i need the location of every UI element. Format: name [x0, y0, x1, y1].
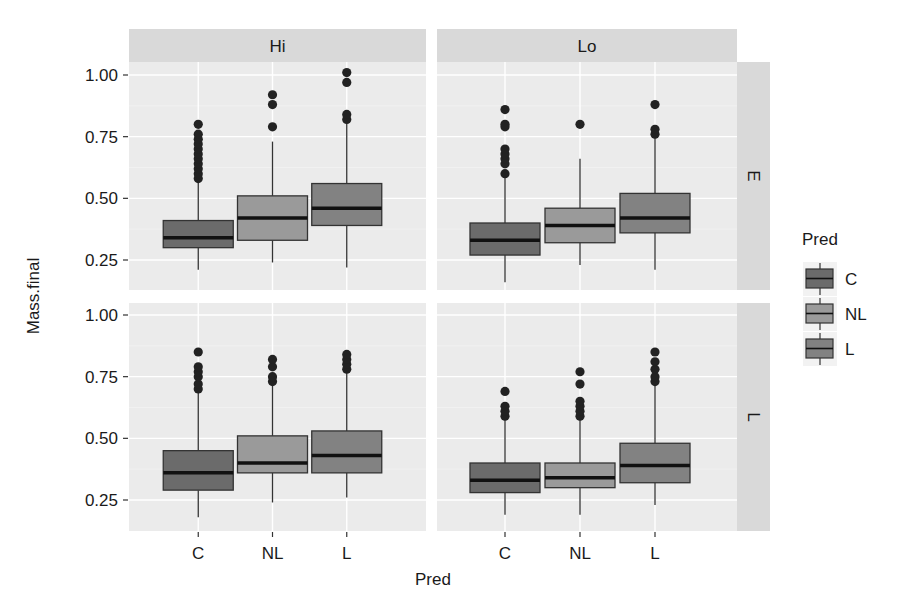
legend-label: NL: [845, 305, 867, 324]
strip-corner: [737, 62, 770, 92]
y-tick-label: 0.25: [85, 251, 118, 270]
y-tick-label: 0.50: [85, 189, 118, 208]
y-axis-e: 0.250.500.751.00: [85, 66, 128, 270]
outlier-point: [194, 347, 203, 356]
y-tick-label: 0.75: [85, 128, 118, 147]
box-iqr: [312, 184, 382, 226]
outlier-point: [342, 68, 351, 77]
outlier-point: [194, 120, 203, 129]
strip-label: Lo: [578, 37, 597, 56]
x-tick-label: NL: [569, 544, 591, 563]
outlier-point: [342, 350, 351, 359]
panels-layer: [129, 62, 737, 531]
faceted-boxplot-chart: HiLoEL Mass.final Pred 0.250.500.751.000…: [0, 0, 915, 612]
panel-background: [129, 303, 426, 531]
y-tick-label: 0.25: [85, 491, 118, 510]
y-axis-title: Mass.final: [24, 258, 43, 335]
strip-lo: Lo: [437, 29, 737, 62]
legend-label: L: [845, 340, 854, 359]
panel-lo-e: [437, 62, 737, 290]
strip-e: E: [737, 92, 770, 290]
legend-item-c: C: [803, 262, 857, 296]
x-tick-label: NL: [262, 544, 284, 563]
y-axis-l: 0.250.500.751.00: [85, 306, 128, 510]
outlier-point: [500, 144, 509, 153]
outlier-point: [194, 130, 203, 139]
strip-label: L: [744, 412, 763, 421]
outlier-point: [575, 120, 584, 129]
panel-background: [129, 62, 426, 290]
x-axis-lo: CNLL: [499, 532, 660, 563]
outlier-point: [194, 362, 203, 371]
strip-hi: Hi: [129, 29, 426, 62]
outlier-point: [650, 347, 659, 356]
box-iqr: [470, 463, 540, 493]
y-tick-label: 0.50: [85, 429, 118, 448]
box-iqr: [620, 193, 690, 232]
legend: Pred CNLL: [802, 230, 867, 366]
outlier-point: [575, 397, 584, 406]
y-tick-label: 1.00: [85, 66, 118, 85]
x-tick-label: C: [499, 544, 511, 563]
outlier-point: [268, 122, 277, 131]
x-tick-label: L: [650, 544, 659, 563]
x-axis-hi: CNLL: [192, 532, 351, 563]
box-iqr: [312, 431, 382, 473]
strip-l: L: [737, 303, 770, 531]
outlier-point: [500, 387, 509, 396]
outlier-point: [268, 90, 277, 99]
outlier-point: [268, 355, 277, 364]
chart-canvas: HiLoEL Mass.final Pred 0.250.500.751.000…: [0, 0, 915, 612]
outlier-point: [575, 379, 584, 388]
legend-title: Pred: [802, 230, 838, 249]
outlier-point: [500, 169, 509, 178]
outlier-point: [342, 110, 351, 119]
outlier-point: [650, 125, 659, 134]
x-axis-title: Pred: [415, 570, 451, 589]
panel-hi-e: [129, 62, 426, 290]
outlier-point: [650, 357, 659, 366]
strip-background: [737, 92, 770, 290]
box-iqr: [620, 443, 690, 482]
outlier-point: [500, 105, 509, 114]
legend-item-nl: NL: [803, 297, 867, 331]
legend-label: C: [845, 270, 857, 289]
outlier-point: [268, 100, 277, 109]
strip-label: Hi: [269, 37, 285, 56]
outlier-point: [500, 402, 509, 411]
panel-lo-l: [437, 303, 737, 531]
y-tick-label: 1.00: [85, 306, 118, 325]
outlier-point: [650, 100, 659, 109]
panel-background: [437, 303, 737, 531]
strip-label: E: [744, 170, 763, 181]
outlier-point: [342, 78, 351, 87]
outlier-point: [500, 120, 509, 129]
outlier-point: [268, 372, 277, 381]
box-iqr: [163, 221, 233, 248]
y-tick-label: 0.75: [85, 368, 118, 387]
box-iqr: [545, 463, 615, 488]
x-tick-label: L: [342, 544, 351, 563]
panel-hi-l: [129, 303, 426, 531]
panel-background: [437, 62, 737, 290]
legend-item-l: L: [803, 332, 854, 366]
box-iqr: [163, 451, 233, 490]
outlier-point: [575, 367, 584, 376]
x-tick-label: C: [192, 544, 204, 563]
box-iqr: [238, 436, 308, 473]
